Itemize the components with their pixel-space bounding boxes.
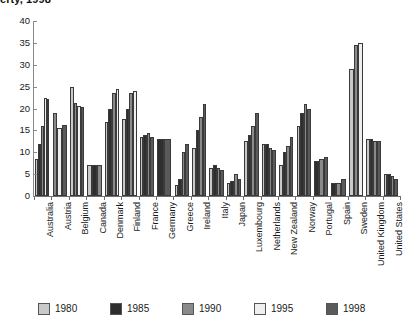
bar-group <box>173 21 190 196</box>
bar-group <box>261 21 278 196</box>
legend-label: 1995 <box>271 303 293 315</box>
y-axis-tick-mark <box>33 87 37 88</box>
chart-plot-area: 0510152025303540 AustraliaAustriaBelgium… <box>0 0 403 300</box>
y-axis-tick-label: 35 <box>19 38 30 48</box>
x-axis-label: Germany <box>168 202 177 239</box>
bar <box>341 179 346 197</box>
bar <box>272 150 276 196</box>
bar-group <box>156 21 173 196</box>
bar <box>133 91 137 196</box>
bar <box>307 109 311 197</box>
x-axis-tick-mark <box>121 196 122 200</box>
x-axis-tick-mark <box>400 196 401 200</box>
x-axis-tick-mark <box>295 196 296 200</box>
legend-item[interactable]: 1985 <box>110 303 149 315</box>
y-axis-tick-mark <box>33 43 37 44</box>
y-axis-tick-mark <box>33 130 37 131</box>
x-axis-tick-mark <box>191 196 192 200</box>
x-axis-tick-mark <box>156 196 157 200</box>
bar <box>238 179 242 197</box>
y-axis-tick-label: 25 <box>19 82 30 92</box>
x-axis-tick-mark <box>313 196 314 200</box>
x-axis-tick-mark <box>139 196 140 200</box>
y-axis-tick-mark <box>33 109 37 110</box>
x-axis-label: France <box>151 202 160 230</box>
bar-group <box>278 21 295 196</box>
y-axis-tick-mark <box>33 21 37 22</box>
bar-group <box>243 21 260 196</box>
bar-group <box>86 21 103 196</box>
x-axis-label: Italy <box>221 202 230 219</box>
y-axis-tick-label: 20 <box>19 104 30 114</box>
x-axis-label: Australia <box>46 202 55 237</box>
bar-group <box>121 21 138 196</box>
x-axis-tick-mark <box>173 196 174 200</box>
x-axis-category-labels: AustraliaAustriaBelgiumCanadaDenmarkFinl… <box>34 202 400 292</box>
legend-swatch-icon <box>38 303 50 315</box>
bar <box>150 137 154 196</box>
bar <box>97 165 102 196</box>
x-axis-label: Greece <box>186 202 195 232</box>
bar-group <box>383 21 400 196</box>
y-axis-tick-label: 5 <box>25 169 30 179</box>
x-axis-label: Japan <box>238 202 247 227</box>
legend-label: 1990 <box>199 303 221 315</box>
x-axis-label: Belgium <box>81 202 90 235</box>
x-axis-tick-mark <box>348 196 349 200</box>
bar-groups-container <box>34 21 400 196</box>
bar <box>220 170 224 196</box>
x-axis-label: Denmark <box>116 202 125 239</box>
x-axis-label: Luxembourg <box>255 202 264 252</box>
bar-group <box>348 21 365 196</box>
x-axis-tick-mark <box>208 196 209 200</box>
legend-swatch-icon <box>110 303 122 315</box>
y-axis-tick-mark <box>33 152 37 153</box>
bar <box>185 144 189 197</box>
bar <box>255 113 259 196</box>
legend-label: 1980 <box>55 303 77 315</box>
bar <box>377 141 381 196</box>
x-axis-tick-mark <box>330 196 331 200</box>
x-axis-label: Norway <box>308 202 317 233</box>
bar <box>157 139 164 196</box>
bar-group <box>313 21 330 196</box>
x-axis-label: United Kingdom <box>377 202 386 266</box>
bar-group <box>208 21 225 196</box>
y-axis-tick-mark <box>33 174 37 175</box>
x-axis-label: Spain <box>343 202 352 225</box>
legend-swatch-icon <box>326 303 338 315</box>
y-axis-tick-label: 30 <box>19 60 30 70</box>
bar <box>290 137 294 196</box>
legend-item[interactable]: 1990 <box>182 303 221 315</box>
x-axis-tick-mark <box>278 196 279 200</box>
chart-legend: 19801985199019951998 <box>38 303 398 321</box>
y-axis-tick-label: 0 <box>25 191 30 201</box>
y-axis-tick-label: 10 <box>19 148 30 158</box>
x-axis-label: Finland <box>133 202 142 232</box>
x-axis-tick-mark <box>34 196 35 200</box>
x-axis-label: Canada <box>99 202 108 234</box>
x-axis-label: Austria <box>64 202 73 230</box>
y-axis-tick-label: 15 <box>19 126 30 136</box>
bar <box>203 104 207 196</box>
legend-item[interactable]: 1995 <box>254 303 293 315</box>
x-axis-label: Netherlands <box>273 202 282 251</box>
x-axis-label: Sweden <box>360 202 369 235</box>
x-axis-label: Ireland <box>203 202 212 230</box>
bar-group <box>330 21 347 196</box>
bar-group <box>191 21 208 196</box>
bar-group <box>51 21 68 196</box>
legend-item[interactable]: 1998 <box>326 303 365 315</box>
legend-item[interactable]: 1980 <box>38 303 77 315</box>
y-axis-tick-label: 40 <box>19 16 30 26</box>
bar <box>47 99 50 196</box>
y-axis-tick-labels: 0510152025303540 <box>10 14 30 204</box>
bar <box>358 43 363 196</box>
bar-group <box>69 21 86 196</box>
x-axis-tick-mark <box>86 196 87 200</box>
x-axis-tick-mark <box>51 196 52 200</box>
legend-swatch-icon <box>254 303 266 315</box>
bar-group <box>226 21 243 196</box>
x-axis-tick-mark <box>261 196 262 200</box>
bar <box>81 107 85 196</box>
